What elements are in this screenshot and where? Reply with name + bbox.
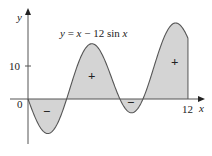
x-axis-label: x <box>198 102 204 114</box>
region-sign-1: − <box>43 104 50 119</box>
origin-label: 0 <box>17 98 23 110</box>
x-tick-label-12: 12 <box>182 103 193 115</box>
y-axis-label: y <box>16 11 22 23</box>
equation-label: y = x − 12 sin x <box>59 27 128 39</box>
y-axis-arrow-icon <box>25 8 31 15</box>
region-sign-3: − <box>127 95 134 110</box>
region-sign-2: + <box>88 68 95 83</box>
shaded-area <box>28 23 188 134</box>
y-tick-label-10: 10 <box>9 60 21 72</box>
region-sign-4: + <box>171 54 178 69</box>
chart-canvas: y x 0 10 12 y = x − 12 sin x − + − + <box>0 0 212 156</box>
